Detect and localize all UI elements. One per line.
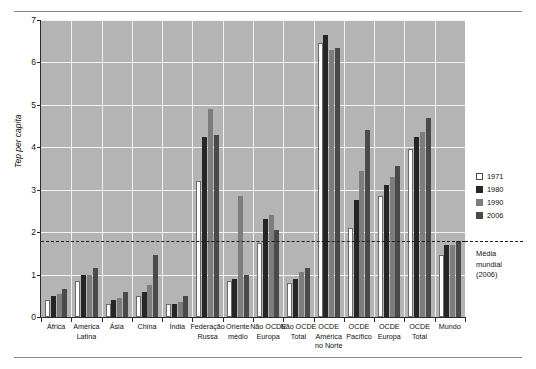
bar-group xyxy=(404,20,434,317)
y-axis xyxy=(40,20,41,318)
bar xyxy=(408,149,413,317)
bar xyxy=(305,268,310,317)
y-tick-5 xyxy=(37,105,41,106)
bar xyxy=(444,245,449,317)
bar xyxy=(147,285,152,317)
y-tick-3 xyxy=(37,190,41,191)
bar xyxy=(439,255,444,317)
y-tick-label-5: 5 xyxy=(24,100,36,110)
bar xyxy=(450,245,455,317)
legend-item-label: 2006 xyxy=(487,211,503,220)
bar xyxy=(274,230,279,317)
bar xyxy=(142,292,147,317)
bar-group xyxy=(71,20,101,317)
bar xyxy=(359,171,364,317)
bar-group xyxy=(314,20,344,317)
legend-swatch-icon xyxy=(476,173,483,180)
bar xyxy=(57,294,62,317)
legend-item-label: 1971 xyxy=(487,172,503,181)
bar-group xyxy=(102,20,132,317)
y-tick-label-4: 4 xyxy=(24,142,36,152)
bar xyxy=(384,185,389,317)
bar xyxy=(183,296,188,317)
bar xyxy=(232,279,237,317)
bar xyxy=(214,135,219,317)
bar xyxy=(202,137,207,317)
bar-group xyxy=(41,20,71,317)
bar xyxy=(45,300,50,317)
bar xyxy=(263,219,268,317)
bar-group xyxy=(162,20,192,317)
legend-item: 1980 xyxy=(476,183,503,196)
legend-item-label: 1990 xyxy=(487,198,503,207)
bar xyxy=(318,43,323,317)
bar xyxy=(178,302,183,317)
bar xyxy=(196,181,201,317)
bar xyxy=(87,275,92,317)
chart-figure: Tep per capita 01234567 ÁfricaAmérica La… xyxy=(0,0,536,369)
bar xyxy=(153,255,158,317)
legend-swatch-icon xyxy=(476,186,483,193)
bar-group xyxy=(253,20,283,317)
legend-item: 1971 xyxy=(476,170,503,183)
bar xyxy=(227,281,232,317)
y-tick-label-7: 7 xyxy=(24,15,36,25)
bar xyxy=(62,289,67,317)
bar xyxy=(106,304,111,317)
legend-item: 1990 xyxy=(476,196,503,209)
plot-area xyxy=(41,20,465,317)
y-tick-label-6: 6 xyxy=(24,57,36,67)
y-tick-6 xyxy=(37,62,41,63)
legend-item-label: 1980 xyxy=(487,185,503,194)
bar xyxy=(414,137,419,317)
bar-group xyxy=(132,20,162,317)
y-axis-title: Tep per capita xyxy=(13,114,23,168)
legend-swatch-icon xyxy=(476,212,483,219)
y-tick-2 xyxy=(37,232,41,233)
bar xyxy=(244,275,249,317)
bar xyxy=(456,241,461,317)
bar xyxy=(426,118,431,317)
bar xyxy=(51,296,56,317)
bar xyxy=(136,296,141,317)
y-tick-label-2: 2 xyxy=(24,227,36,237)
y-tick-4 xyxy=(37,147,41,148)
bar xyxy=(172,304,177,317)
bar xyxy=(208,109,213,317)
bar xyxy=(390,177,395,317)
bar xyxy=(293,279,298,317)
bar xyxy=(123,292,128,317)
bar xyxy=(93,268,98,317)
bar-group xyxy=(435,20,465,317)
y-tick-label-1: 1 xyxy=(24,270,36,280)
bar xyxy=(117,298,122,317)
y-tick-label-3: 3 xyxy=(24,185,36,195)
bar xyxy=(257,243,262,317)
bar xyxy=(299,272,304,317)
y-tick-7 xyxy=(37,20,41,21)
bar xyxy=(420,132,425,317)
bar xyxy=(238,196,243,317)
bar-group xyxy=(374,20,404,317)
bar-group xyxy=(223,20,253,317)
bar-group xyxy=(192,20,222,317)
bar xyxy=(395,166,400,317)
bar xyxy=(329,50,334,317)
legend-swatch-icon xyxy=(476,199,483,206)
bottom-divider-rule xyxy=(14,357,522,358)
bar xyxy=(335,48,340,317)
bar xyxy=(75,281,80,317)
bar xyxy=(365,130,370,317)
legend-item: 2006 xyxy=(476,209,503,222)
bar xyxy=(166,304,171,317)
bar xyxy=(269,215,274,317)
bar xyxy=(287,283,292,317)
world-average-line xyxy=(41,241,465,242)
y-tick-1 xyxy=(37,275,41,276)
top-divider-rule xyxy=(14,11,522,12)
bar-group xyxy=(344,20,374,317)
bar xyxy=(111,300,116,317)
x-axis-category-label: Mundo xyxy=(429,322,471,332)
world-average-legend-label: Média mundial (2006) xyxy=(476,249,502,281)
bar xyxy=(81,275,86,317)
